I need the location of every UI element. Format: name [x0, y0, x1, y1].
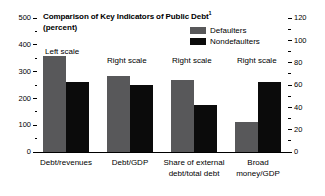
y-axis-left-tick-label: 200 [18, 95, 31, 103]
tick-mark [288, 129, 292, 130]
bar-defaulters[interactable] [43, 56, 66, 152]
x-axis-label-line: Broad [215, 157, 301, 168]
y-axis-right-tick-label: 80 [294, 59, 302, 67]
bar-nondefaulters[interactable] [194, 105, 217, 152]
y-axis-left-tick-label: 400 [18, 41, 31, 49]
bar-group-share-external-debt [171, 18, 217, 152]
y-axis-right-tick-label: 0 [294, 148, 298, 156]
bar-nondefaulters[interactable] [258, 82, 281, 152]
bar-defaulters[interactable] [171, 80, 194, 152]
y-axis-right-tick-label: 60 [294, 81, 302, 89]
y-axis-right-tick-label: 120 [294, 14, 307, 22]
y-axis-left-tick-label: 300 [18, 68, 31, 76]
bar-group-debt-revenues [43, 18, 89, 152]
tick-mark [288, 18, 292, 19]
scale-note-right-3: Right scale [237, 56, 277, 65]
bar-nondefaulters[interactable] [66, 82, 89, 152]
tick-mark [288, 152, 292, 153]
y-axis-right-tick-label: 20 [294, 126, 302, 134]
tick-mark [288, 107, 292, 108]
y-axis-right-tick-label: 40 [294, 104, 302, 112]
tick-mark [288, 96, 291, 97]
chart-figure: Comparison of Key Indicators of Public D… [0, 0, 325, 196]
tick-mark [288, 51, 291, 52]
tick-mark [288, 62, 292, 63]
scale-note-right-1: Right scale [107, 56, 147, 65]
x-axis-label-broad-money-gdp: Broad money/GDP [215, 157, 301, 179]
tick-mark [288, 118, 291, 119]
y-axis-left-tick-label: 100 [18, 121, 31, 129]
bar-group-debt-gdp [107, 18, 153, 152]
tick-mark [288, 85, 292, 86]
tick-mark [288, 140, 291, 141]
y-axis-left-tick-label: 500 [18, 14, 31, 22]
scale-note-right-2: Right scale [172, 56, 212, 65]
y-axis-right-tick-label: 100 [294, 37, 307, 45]
chart-title-footnote-marker: 1 [209, 10, 212, 16]
y-axis-left-tick-label: 0 [27, 148, 31, 156]
plot-area [37, 18, 288, 152]
x-axis-label-line: money/GDP [215, 168, 301, 179]
bar-defaulters[interactable] [107, 76, 130, 152]
bar-defaulters[interactable] [235, 122, 258, 152]
bar-nondefaulters[interactable] [130, 85, 153, 152]
tick-mark [288, 73, 291, 74]
bar-group-broad-money-gdp [235, 18, 281, 152]
tick-mark [288, 40, 292, 41]
scale-note-left: Left scale [45, 47, 79, 56]
x-axis-baseline [37, 152, 288, 153]
tick-mark [288, 29, 291, 30]
y-axis-left: 500 400 300 200 100 0 [3, 18, 37, 152]
y-axis-right: 120 100 80 60 40 20 0 [288, 18, 322, 152]
